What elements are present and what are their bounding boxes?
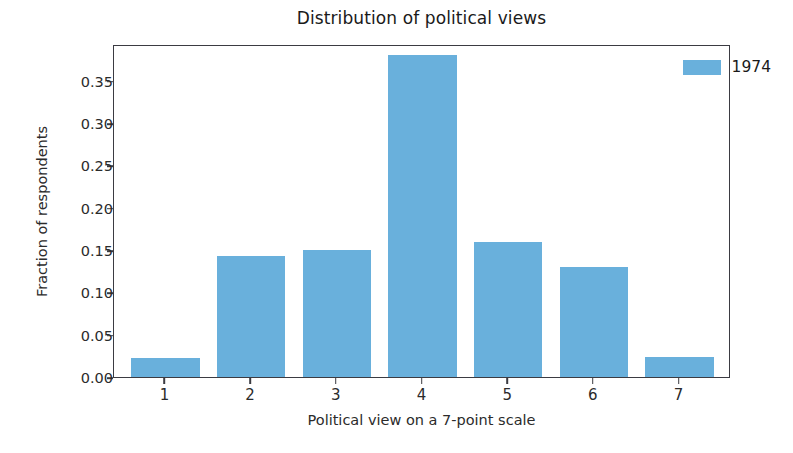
x-tick-mark-1 xyxy=(164,378,166,384)
chart-figure: Distribution of political views Fraction… xyxy=(0,0,793,453)
x-tick-label-5: 5 xyxy=(487,386,527,404)
y-tick-label-0.15: 0.15 xyxy=(56,243,113,259)
y-tick-label-0.30: 0.30 xyxy=(56,116,113,132)
x-tick-mark-7 xyxy=(678,378,680,384)
x-tick-label-2: 2 xyxy=(230,386,270,404)
bar-7 xyxy=(645,357,714,377)
plot-area xyxy=(113,45,730,378)
chart-title: Distribution of political views xyxy=(113,8,730,28)
bar-1 xyxy=(131,358,200,377)
bars-layer xyxy=(114,46,729,377)
y-tick-label-0.20: 0.20 xyxy=(56,201,113,217)
x-tick-mark-2 xyxy=(249,378,251,384)
bar-3 xyxy=(303,250,372,377)
x-tick-mark-6 xyxy=(592,378,594,384)
y-tick-label-0.05: 0.05 xyxy=(56,328,113,344)
x-tick-mark-5 xyxy=(506,378,508,384)
x-tick-mark-3 xyxy=(335,378,337,384)
y-tick-label-0.25: 0.25 xyxy=(56,158,113,174)
bar-6 xyxy=(560,267,629,377)
legend-label-1974: 1974 xyxy=(732,58,771,76)
y-tick-label-0.00: 0.00 xyxy=(56,370,113,386)
bar-5 xyxy=(474,242,543,377)
legend-swatch-1974 xyxy=(683,60,721,75)
y-tick-label-0.10: 0.10 xyxy=(56,285,113,301)
x-tick-label-4: 4 xyxy=(402,386,442,404)
x-tick-label-7: 7 xyxy=(659,386,699,404)
x-axis-label: Political view on a 7-point scale xyxy=(113,412,730,428)
x-tick-label-3: 3 xyxy=(316,386,356,404)
x-tick-mark-4 xyxy=(421,378,423,384)
bar-2 xyxy=(217,256,286,377)
y-axis-label: Fraction of respondents xyxy=(34,45,56,378)
x-tick-label-1: 1 xyxy=(144,386,184,404)
y-tick-label-0.35: 0.35 xyxy=(56,74,113,90)
chart-legend: 1974 xyxy=(683,58,771,76)
bar-4 xyxy=(388,55,457,377)
x-tick-label-6: 6 xyxy=(573,386,613,404)
